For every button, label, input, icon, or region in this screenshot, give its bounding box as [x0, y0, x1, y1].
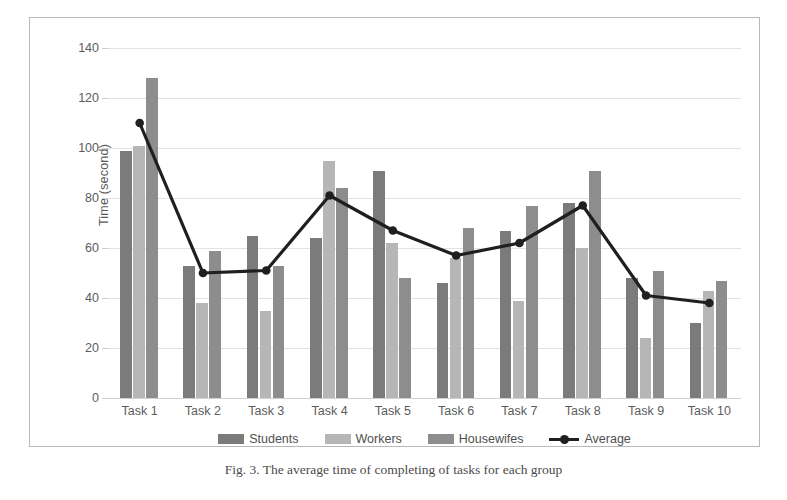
- chart-legend: Students Workers Housewifes Average: [108, 432, 741, 446]
- figure-number: Fig. 3.: [225, 462, 260, 477]
- figure-caption: Fig. 3. The average time of completing o…: [0, 462, 787, 478]
- y-tick-label-0: 0: [92, 391, 99, 405]
- plot-area: 020406080100120140 Task 1 — Average: 110…: [108, 48, 741, 398]
- average-line-path: [140, 123, 710, 303]
- x-axis-label: Task 8: [565, 404, 601, 418]
- x-axis-labels: Task 1Task 2Task 3Task 4Task 5Task 6Task…: [108, 404, 741, 424]
- chart-frame: Time (second) 020406080100120140 Task 1 …: [29, 17, 760, 447]
- average-data-point[interactable]: Task 1 — Average: 110: [135, 119, 144, 128]
- legend-swatch-workers-icon: [325, 434, 351, 444]
- legend-label-average: Average: [584, 432, 630, 446]
- average-data-point[interactable]: Task 9 — Average: 41: [642, 291, 651, 300]
- x-axis-label: Task 6: [438, 404, 474, 418]
- y-tick-label-20: 20: [85, 341, 99, 355]
- legend-line-marker-icon: [549, 434, 579, 445]
- y-tick-label-80: 80: [85, 191, 99, 205]
- x-axis-label: Task 1: [122, 404, 158, 418]
- average-data-point[interactable]: Task 8 — Average: 77: [578, 201, 587, 210]
- legend-label-housewifes: Housewifes: [459, 432, 524, 446]
- legend-swatch-housewifes-icon: [428, 434, 454, 444]
- average-data-point[interactable]: Task 6 — Average: 57: [452, 251, 461, 260]
- x-axis-label: Task 3: [248, 404, 284, 418]
- x-axis-label: Task 10: [688, 404, 731, 418]
- figure-container: Time (second) 020406080100120140 Task 1 …: [0, 0, 787, 500]
- legend-label-workers: Workers: [356, 432, 402, 446]
- average-data-point[interactable]: Task 7 — Average: 62: [515, 239, 524, 248]
- y-tick-label-100: 100: [78, 141, 99, 155]
- x-axis-label: Task 4: [311, 404, 347, 418]
- legend-label-students: Students: [249, 432, 298, 446]
- legend-swatch-students-icon: [218, 434, 244, 444]
- y-tick-label-40: 40: [85, 291, 99, 305]
- average-data-point[interactable]: Task 4 — Average: 81: [325, 191, 334, 200]
- y-tick-label-140: 140: [78, 41, 99, 55]
- x-axis-label: Task 7: [501, 404, 537, 418]
- average-line-layer: Task 1 — Average: 110Task 2 — Average: 5…: [108, 48, 741, 398]
- y-tick-label-60: 60: [85, 241, 99, 255]
- x-axis-label: Task 9: [628, 404, 664, 418]
- y-tick-dash-0: [102, 398, 108, 399]
- legend-item-housewifes[interactable]: Housewifes: [428, 432, 524, 446]
- y-tick-label-120: 120: [78, 91, 99, 105]
- figure-caption-text: The average time of completing of tasks …: [263, 462, 563, 477]
- average-data-point[interactable]: Task 2 — Average: 50: [199, 269, 208, 278]
- average-line-svg: Task 1 — Average: 110Task 2 — Average: 5…: [108, 48, 741, 398]
- legend-item-workers[interactable]: Workers: [325, 432, 402, 446]
- legend-item-students[interactable]: Students: [218, 432, 298, 446]
- average-data-point[interactable]: Task 5 — Average: 67: [389, 226, 398, 235]
- x-axis-label: Task 5: [375, 404, 411, 418]
- average-data-point[interactable]: Task 10 — Average: 38: [705, 299, 714, 308]
- legend-item-average[interactable]: Average: [549, 432, 630, 446]
- gridline-0: [108, 398, 741, 399]
- average-data-point[interactable]: Task 3 — Average: 51: [262, 266, 271, 275]
- x-axis-label: Task 2: [185, 404, 221, 418]
